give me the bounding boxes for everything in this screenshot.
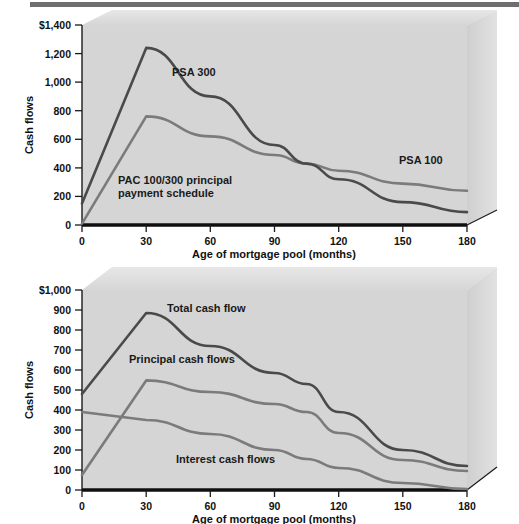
y-tick-label: 1,200 <box>45 48 71 60</box>
series-annotation-pac-line1: PAC 100/300 principal <box>118 174 232 186</box>
y-tick-label: 400 <box>53 404 71 416</box>
y-tick-label: 1,000 <box>45 76 71 88</box>
y-tick-label: 300 <box>53 424 71 436</box>
y-tick-label: $1,400 <box>39 19 71 31</box>
x-tick-label: 90 <box>269 235 281 247</box>
figure-psa-prepayment: $1,400 1,200 1,000 800 600 400 200 0 0 3… <box>0 0 519 262</box>
y-tick-label: 800 <box>53 324 71 336</box>
y-axis-title: Cash flows <box>23 96 35 154</box>
x-axis-title: Age of mortgage pool (months) <box>192 513 356 524</box>
y-tick-label: 0 <box>65 219 71 231</box>
figure-cash-flow-components: $1,000 900 800 700 600 500 400 300 200 1… <box>0 262 519 524</box>
y-tick-label: 200 <box>53 444 71 456</box>
series-annotation-interest-cash-flows: Interest cash flows <box>176 453 275 465</box>
y-axis-ticks <box>75 25 82 225</box>
x-tick-label: 120 <box>330 235 348 247</box>
series-annotation-principal-cash-flows: Principal cash flows <box>129 353 235 365</box>
series-annotation-total-cash-flow: Total cash flow <box>167 302 246 314</box>
chart-3d-top-face <box>82 267 497 290</box>
chart-cash-flow-components: $1,000 900 800 700 600 500 400 300 200 1… <box>0 262 519 524</box>
y-tick-label: 100 <box>53 464 71 476</box>
x-tick-label: 150 <box>394 235 412 247</box>
y-tick-label: 200 <box>53 190 71 202</box>
x-tick-label: 30 <box>140 235 152 247</box>
y-axis-ticks <box>75 290 82 490</box>
series-annotation-pac-line2: payment schedule <box>118 187 214 199</box>
y-axis-title: Cash flows <box>23 361 35 419</box>
chart-3d-right-face <box>467 267 497 490</box>
y-tick-label: $1,000 <box>39 284 71 296</box>
y-tick-label: 700 <box>53 344 71 356</box>
y-tick-label: 900 <box>53 304 71 316</box>
y-tick-label: 0 <box>65 484 71 496</box>
series-annotation-psa-100: PSA 100 <box>399 154 443 166</box>
y-tick-label: 500 <box>53 384 71 396</box>
x-tick-label: 180 <box>458 500 476 512</box>
y-tick-label: 600 <box>53 133 71 145</box>
chart-3d-top-face <box>82 10 497 25</box>
x-tick-label: 180 <box>458 235 476 247</box>
x-tick-label: 150 <box>394 500 412 512</box>
x-tick-label: 30 <box>140 500 152 512</box>
y-tick-label: 800 <box>53 105 71 117</box>
x-axis-title: Age of mortgage pool (months) <box>192 248 356 260</box>
chart-psa-prepayment: $1,400 1,200 1,000 800 600 400 200 0 0 3… <box>0 0 519 262</box>
series-annotation-psa-300: PSA 300 <box>172 66 216 78</box>
x-tick-label: 90 <box>269 500 281 512</box>
x-tick-label: 60 <box>204 235 216 247</box>
x-tick-label: 120 <box>330 500 348 512</box>
x-tick-label: 0 <box>79 235 85 247</box>
x-tick-label: 0 <box>79 500 85 512</box>
x-tick-label: 60 <box>204 500 216 512</box>
chart-3d-right-face <box>467 10 497 225</box>
y-tick-label: 400 <box>53 162 71 174</box>
y-tick-label: 600 <box>53 364 71 376</box>
